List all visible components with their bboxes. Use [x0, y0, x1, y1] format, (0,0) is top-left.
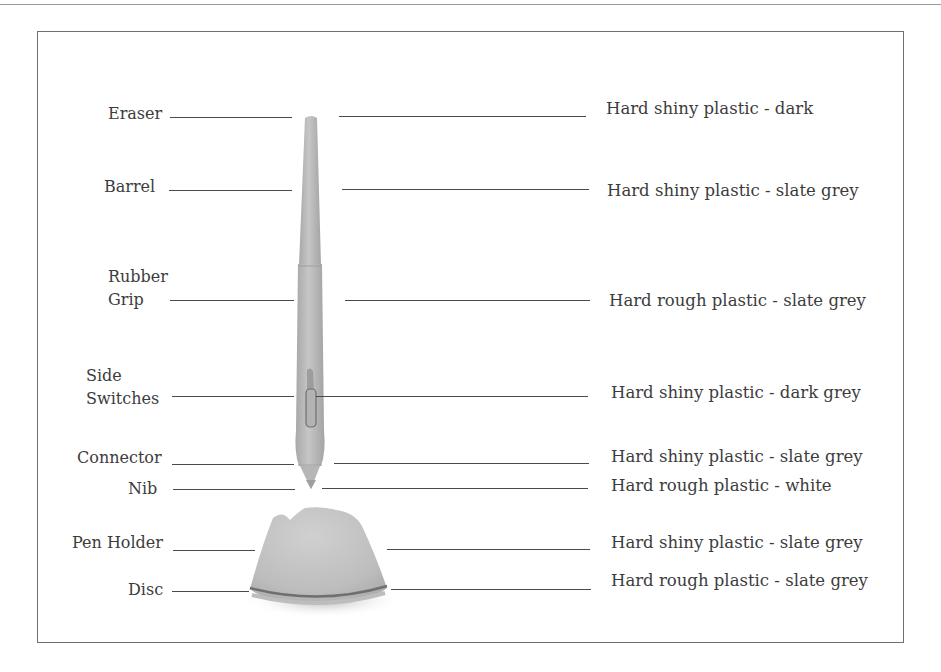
label-side-switches-line2: Switches	[86, 389, 159, 408]
label-pen-holder: Pen Holder	[72, 533, 163, 552]
leader-right-rubber-grip	[345, 300, 590, 301]
leader-left-disc	[172, 591, 249, 592]
material-barrel: Hard shiny plastic - slate grey	[607, 181, 859, 200]
leader-left-barrel	[169, 190, 292, 191]
label-connector: Connector	[77, 448, 162, 467]
pen-eraser-barrel	[299, 116, 321, 265]
label-rubber-grip-line2: Grip	[108, 290, 144, 309]
label-side-switches-line1: Side	[86, 366, 122, 385]
material-side-switches: Hard shiny plastic - dark grey	[611, 383, 861, 402]
leader-right-nib	[322, 488, 588, 489]
label-disc: Disc	[128, 580, 163, 599]
leader-left-nib	[173, 489, 295, 490]
leader-right-barrel	[342, 189, 589, 190]
material-rubber-grip: Hard rough plastic - slate grey	[609, 291, 866, 310]
leader-right-pen-holder	[387, 549, 590, 550]
material-pen-holder: Hard shiny plastic - slate grey	[611, 533, 863, 552]
material-connector: Hard shiny plastic - slate grey	[611, 447, 863, 466]
leader-left-rubber-grip	[170, 300, 294, 301]
leader-right-side-switches	[316, 396, 588, 397]
leader-right-eraser	[339, 116, 586, 117]
label-rubber-grip-line1: Rubber	[108, 267, 168, 286]
leader-left-eraser	[170, 117, 292, 118]
label-barrel: Barrel	[104, 177, 155, 196]
pen-holder-base	[243, 507, 403, 618]
material-disc: Hard rough plastic - slate grey	[611, 571, 868, 590]
leader-right-disc	[391, 589, 591, 590]
pen-connector	[295, 430, 324, 466]
material-nib: Hard rough plastic - white	[611, 476, 832, 495]
pen-nib	[300, 466, 320, 489]
leader-left-side-switches	[172, 396, 294, 397]
label-eraser: Eraser	[108, 104, 162, 123]
leader-left-pen-holder	[173, 550, 255, 551]
label-nib: Nib	[128, 479, 157, 498]
leader-left-connector	[172, 464, 294, 465]
material-eraser: Hard shiny plastic - dark	[606, 99, 813, 118]
leader-right-connector	[334, 463, 589, 464]
